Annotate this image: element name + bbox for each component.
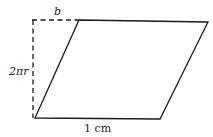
label-height: 2πr [8,65,29,78]
label-base: 1 cm [84,122,112,135]
parallelogram-diagram: b 2πr 1 cm [0,0,213,137]
label-b: b [54,5,61,18]
parallelogram [35,20,208,119]
